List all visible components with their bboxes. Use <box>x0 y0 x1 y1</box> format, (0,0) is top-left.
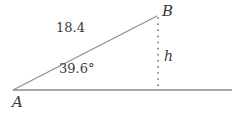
segment-ab-hypotenuse <box>13 16 157 90</box>
vertex-label-a: A <box>12 95 23 110</box>
angle-measure-label-a: 39.6° <box>59 62 94 75</box>
diagram-canvas <box>0 0 243 117</box>
side-length-label-ab: 18.4 <box>56 21 85 34</box>
vertex-label-b: B <box>162 4 173 19</box>
triangle-diagram: A B 18.4 39.6° h <box>0 0 243 117</box>
height-label-h: h <box>164 49 173 63</box>
